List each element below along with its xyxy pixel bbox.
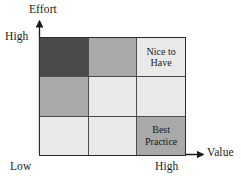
effort-value-matrix-figure: Effort High Value Low High Nice to HaveB… bbox=[0, 0, 241, 184]
x-axis-title: Value bbox=[207, 146, 234, 159]
x-axis-low-tick-label: Low bbox=[10, 160, 31, 173]
matrix-cell[interactable] bbox=[89, 38, 137, 76]
matrix-cell[interactable]: Best Practice bbox=[137, 117, 185, 155]
matrix-grid: Nice to HaveBest Practice bbox=[39, 37, 186, 156]
y-axis-title: Effort bbox=[29, 3, 57, 16]
matrix-cell[interactable] bbox=[89, 77, 137, 115]
matrix-cell[interactable]: Nice to Have bbox=[137, 38, 185, 76]
matrix-cell[interactable] bbox=[40, 117, 88, 155]
matrix-cell-label: Nice to Have bbox=[145, 46, 178, 69]
x-axis-high-tick-label: High bbox=[155, 160, 178, 173]
matrix-cell-label: Best Practice bbox=[143, 124, 179, 147]
y-axis-high-tick-label: High bbox=[5, 30, 28, 43]
matrix-cell[interactable] bbox=[40, 38, 88, 76]
matrix-cell[interactable] bbox=[137, 77, 185, 115]
matrix-cell[interactable] bbox=[89, 117, 137, 155]
matrix-cell[interactable] bbox=[40, 77, 88, 115]
